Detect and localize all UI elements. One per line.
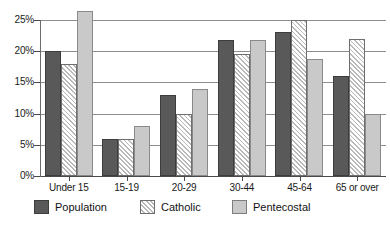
- bar-chart: 0%5%10%15%20%25% Under 1515-1920-2930-44…: [0, 0, 390, 226]
- bar-catholic: [61, 64, 77, 176]
- y-tick-label-5: 5%: [4, 140, 34, 150]
- bar-population: [102, 139, 118, 176]
- bar-pentecostal: [192, 89, 208, 176]
- bar-catholic: [234, 54, 250, 176]
- bar-group: [155, 6, 213, 176]
- legend-item-catholic: Catholic: [140, 199, 201, 215]
- bar-population: [160, 95, 176, 176]
- bar-catholic: [118, 139, 134, 176]
- bar-population: [275, 32, 291, 176]
- bar-group-bars: [213, 6, 271, 176]
- y-tick-25: [34, 20, 40, 21]
- legend-label-pentecostal: Pentecostal: [253, 201, 310, 213]
- bar-pentecostal: [307, 59, 323, 176]
- bar-catholic: [349, 39, 365, 176]
- legend-item-population: Population: [34, 199, 107, 215]
- axis-baseline: [40, 176, 386, 177]
- bar-population: [333, 76, 349, 176]
- legend-label-catholic: Catholic: [161, 201, 201, 213]
- legend-item-pentecostal: Pentecostal: [232, 199, 310, 215]
- bar-group: [40, 6, 98, 176]
- x-tick: [357, 176, 358, 181]
- legend-label-population: Population: [55, 201, 107, 213]
- x-tick: [242, 176, 243, 181]
- bar-population: [218, 40, 234, 176]
- y-tick-label-20: 20%: [4, 46, 34, 56]
- bar-catholic: [291, 20, 307, 176]
- y-tick-label-15: 15%: [4, 77, 34, 87]
- bar-group-bars: [328, 6, 386, 176]
- bar-group-bars: [40, 6, 98, 176]
- bar-pentecostal: [134, 126, 150, 176]
- bar-group-bars: [155, 6, 213, 176]
- x-tick: [300, 176, 301, 181]
- bar-group-bars: [271, 6, 329, 176]
- y-tick-5: [34, 145, 40, 146]
- legend-swatch-pentecostal: [232, 200, 247, 214]
- bar-pentecostal: [365, 114, 381, 176]
- chart-legend: Population Catholic Pentecostal: [0, 199, 390, 221]
- x-tick-label: 65 or over: [317, 182, 390, 193]
- x-tick: [127, 176, 128, 181]
- bar-group: [213, 6, 271, 176]
- y-tick-label-0: 0%: [4, 171, 34, 181]
- x-tick: [184, 176, 185, 181]
- legend-swatch-population: [34, 200, 49, 214]
- bar-group: [98, 6, 156, 176]
- y-tick-label-25: 25%: [4, 15, 34, 25]
- y-tick-0: [34, 176, 40, 177]
- bar-pentecostal: [77, 11, 93, 176]
- y-tick-10: [34, 114, 40, 115]
- bar-population: [45, 51, 61, 176]
- bar-catholic: [176, 114, 192, 176]
- x-tick: [69, 176, 70, 181]
- legend-swatch-catholic: [140, 200, 155, 214]
- bar-group-bars: [98, 6, 156, 176]
- y-tick-20: [34, 51, 40, 52]
- bar-group: [328, 6, 386, 176]
- bar-group: [271, 6, 329, 176]
- y-tick-15: [34, 82, 40, 83]
- bar-pentecostal: [250, 40, 266, 176]
- y-tick-label-10: 10%: [4, 109, 34, 119]
